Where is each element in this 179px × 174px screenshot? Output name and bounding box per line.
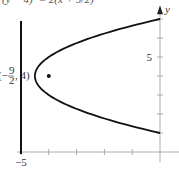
parabola-curve [35,19,160,133]
parabola-plot: −55xy(−92, 4) [0,0,179,174]
y-tick-label: 5 [147,51,153,63]
x-tick-label: −5 [15,156,27,168]
y-axis-arrow [157,5,163,14]
vertex-label-prefix: (− [0,69,8,82]
focus-point [47,74,51,78]
vertex-label-denominator: 2 [9,74,15,86]
vertex-label: (−92, 4) [0,64,30,86]
vertex-label-suffix: , 4) [15,69,30,82]
y-axis-label: y [164,3,170,15]
